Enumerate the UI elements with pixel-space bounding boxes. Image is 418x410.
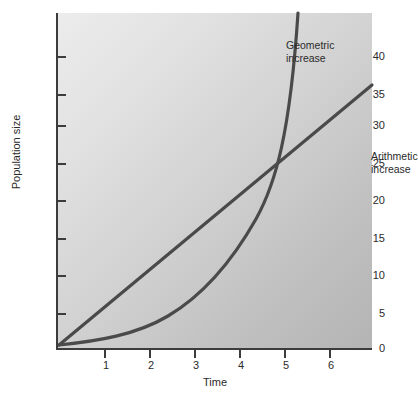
y-axis-title: Population size bbox=[10, 92, 22, 212]
y-tick-5 bbox=[58, 313, 66, 315]
x-tick-1 bbox=[104, 350, 106, 358]
x-tick-6 bbox=[329, 350, 331, 358]
y-ticklabel-35: 35 bbox=[343, 89, 385, 100]
y-tick-35 bbox=[58, 94, 66, 96]
y-ticklabel-30: 30 bbox=[343, 120, 385, 131]
y-ticklabel-15: 15 bbox=[343, 233, 385, 244]
y-tick-40 bbox=[58, 56, 66, 58]
y-tick-25 bbox=[58, 163, 66, 165]
y-ticklabel-5: 5 bbox=[343, 308, 385, 319]
curve-arithmetic bbox=[59, 85, 372, 345]
x-axis-title: Time bbox=[58, 376, 372, 388]
curve-geometric bbox=[59, 13, 298, 345]
y-ticklabel-0: 0 bbox=[343, 343, 385, 354]
x-tick-5 bbox=[284, 350, 286, 358]
y-ticklabel-20: 20 bbox=[343, 195, 385, 206]
y-ticklabel-25: 25 bbox=[343, 158, 385, 169]
x-ticklabel-1: 1 bbox=[94, 360, 118, 371]
y-ticklabel-10: 10 bbox=[343, 270, 385, 281]
y-tick-15 bbox=[58, 238, 66, 240]
x-tick-2 bbox=[149, 350, 151, 358]
y-axis-line bbox=[56, 13, 58, 350]
x-ticklabel-4: 4 bbox=[229, 360, 253, 371]
y-tick-0 bbox=[58, 348, 66, 350]
y-tick-30 bbox=[58, 125, 66, 127]
plot-area: Geometric increase Arithmetic increase bbox=[58, 13, 372, 348]
x-tick-3 bbox=[194, 350, 196, 358]
y-tick-10 bbox=[58, 275, 66, 277]
y-ticklabel-40: 40 bbox=[343, 51, 385, 62]
x-ticklabel-5: 5 bbox=[274, 360, 298, 371]
x-ticklabel-6: 6 bbox=[319, 360, 343, 371]
x-ticklabel-3: 3 bbox=[184, 360, 208, 371]
x-tick-4 bbox=[239, 350, 241, 358]
y-tick-20 bbox=[58, 200, 66, 202]
annotation-geometric-increase: Geometric increase bbox=[286, 39, 334, 64]
x-ticklabel-2: 2 bbox=[139, 360, 163, 371]
